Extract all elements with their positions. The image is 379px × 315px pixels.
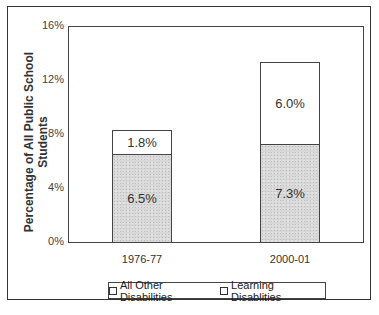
legend-item-other: All Other Disabilities	[109, 279, 216, 303]
legend-swatch-icon	[220, 287, 228, 295]
y-tick-12: 12%	[36, 73, 64, 85]
bar-1976-other-disabilities: 6.5%	[112, 154, 172, 243]
legend-swatch-icon	[109, 287, 117, 295]
legend-label: All Other Disabilities	[120, 279, 216, 303]
y-tick-8: 8%	[36, 127, 64, 139]
legend-label: Learning Disablities	[231, 279, 325, 303]
bar-value-label: 1.8%	[127, 135, 157, 150]
bar-2000-other-disabilities: 7.3%	[260, 144, 320, 243]
bar-value-label: 7.3%	[275, 186, 305, 201]
x-tick-1976-77: 1976-77	[102, 253, 182, 265]
legend: All Other Disabilities Learning Disablit…	[108, 282, 326, 299]
y-tick-4: 4%	[36, 181, 64, 193]
y-axis-label: Percentage of All Public School Students	[22, 34, 50, 250]
bar-value-label: 6.5%	[127, 191, 157, 206]
bar-value-label: 6.0%	[275, 96, 305, 111]
bar-2000-learning-disabilities: 6.0%	[260, 62, 320, 145]
bar-1976-learning-disabilities: 1.8%	[112, 130, 172, 155]
y-tick-0: 0%	[36, 235, 64, 247]
y-tick-16: 16%	[36, 19, 64, 31]
x-tick-2000-01: 2000-01	[250, 253, 330, 265]
legend-item-ld: Learning Disablities	[220, 279, 325, 303]
